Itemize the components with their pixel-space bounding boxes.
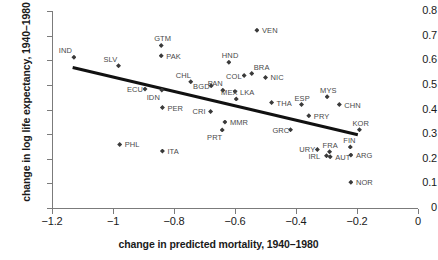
data-point-label: PRY bbox=[314, 112, 330, 121]
data-point-label: PHL bbox=[125, 140, 140, 149]
data-point-label: HND bbox=[222, 51, 239, 60]
data-point bbox=[234, 96, 239, 101]
data-point bbox=[143, 87, 148, 92]
data-point bbox=[327, 149, 332, 154]
data-point bbox=[242, 73, 247, 78]
x-tick bbox=[174, 209, 175, 214]
data-point-label: FRA bbox=[323, 141, 338, 150]
y-tick bbox=[47, 183, 52, 184]
data-point-label: MMR bbox=[230, 118, 248, 127]
data-point bbox=[299, 102, 304, 107]
y-tick bbox=[47, 36, 52, 37]
y-tick-label: 0.6 bbox=[393, 53, 437, 65]
x-tick-label: −0.8 bbox=[154, 215, 194, 227]
data-point-label: IRL bbox=[308, 152, 320, 161]
y-tick-label: 0.2 bbox=[393, 152, 437, 164]
data-point bbox=[222, 120, 227, 125]
x-tick bbox=[113, 209, 114, 214]
x-tick bbox=[357, 209, 358, 214]
y-tick-label: 0.5 bbox=[393, 78, 437, 90]
data-point-label: KOR bbox=[352, 119, 369, 128]
data-point-label: ECU bbox=[127, 85, 143, 94]
data-point bbox=[357, 127, 362, 132]
data-point bbox=[254, 28, 259, 33]
data-point-label: SLV bbox=[103, 55, 117, 64]
data-point-label: IDN bbox=[147, 93, 160, 102]
data-point bbox=[306, 113, 311, 118]
y-tick-label: 0.7 bbox=[393, 29, 437, 41]
x-tick-label: 0 bbox=[398, 215, 438, 227]
x-tick bbox=[296, 209, 297, 214]
data-point bbox=[348, 144, 353, 149]
data-point-label: GTM bbox=[154, 34, 171, 43]
data-point bbox=[160, 149, 165, 154]
x-tick bbox=[52, 209, 53, 214]
data-point-label: MEX bbox=[221, 88, 238, 97]
data-point bbox=[269, 100, 274, 105]
data-point-label: FIN bbox=[343, 136, 355, 145]
x-axis-label: change in predicted mortality, 1940–1980 bbox=[0, 238, 437, 250]
data-point bbox=[263, 75, 268, 80]
data-point-label: LKA bbox=[240, 88, 254, 97]
data-point bbox=[71, 55, 76, 60]
data-point-label: ITA bbox=[167, 147, 178, 156]
data-point-label: GRC bbox=[272, 126, 289, 135]
data-point-label: CHL bbox=[176, 71, 191, 80]
trend-line bbox=[73, 66, 359, 136]
data-point bbox=[328, 154, 333, 159]
data-point bbox=[116, 63, 121, 68]
y-tick-label: 0.4 bbox=[393, 103, 437, 115]
y-tick bbox=[47, 85, 52, 86]
data-point-label: MYS bbox=[320, 86, 337, 95]
data-point bbox=[337, 102, 342, 107]
y-tick-label: 0.8 bbox=[393, 4, 437, 16]
data-point bbox=[324, 153, 329, 158]
x-tick-label: −0.2 bbox=[337, 215, 377, 227]
data-point-label: COL bbox=[226, 72, 242, 81]
y-axis-label: change in log life expectancy, 1940–1980 bbox=[20, 2, 32, 202]
data-point-label: PAK bbox=[166, 52, 181, 61]
y-tick-label: 0.1 bbox=[393, 176, 437, 188]
data-point bbox=[325, 94, 330, 99]
data-point bbox=[159, 43, 164, 48]
y-tick bbox=[47, 134, 52, 135]
data-point bbox=[226, 60, 231, 65]
y-axis-line bbox=[52, 11, 53, 209]
x-tick-label: −1 bbox=[93, 215, 133, 227]
data-point-label: NOR bbox=[356, 178, 373, 187]
data-point bbox=[249, 71, 254, 76]
data-point-label: IND bbox=[59, 46, 72, 55]
y-tick bbox=[47, 60, 52, 61]
data-point bbox=[348, 180, 353, 185]
x-tick-label: −1.2 bbox=[32, 215, 72, 227]
x-tick-label: −0.6 bbox=[215, 215, 255, 227]
data-point-label: ARG bbox=[356, 151, 373, 160]
data-point-label: VEN bbox=[262, 26, 278, 35]
data-point-label: AUT bbox=[335, 153, 350, 162]
data-point bbox=[159, 53, 164, 58]
data-point bbox=[117, 142, 122, 147]
y-tick bbox=[47, 159, 52, 160]
y-tick bbox=[47, 110, 52, 111]
data-point-label: PER bbox=[167, 104, 183, 113]
y-tick-label: 0.3 bbox=[393, 127, 437, 139]
x-tick bbox=[418, 209, 419, 214]
data-point bbox=[208, 109, 213, 114]
data-point bbox=[160, 105, 165, 110]
data-point-label: CRI bbox=[193, 107, 206, 116]
data-point-label: BRA bbox=[254, 63, 270, 72]
data-point bbox=[220, 127, 225, 132]
data-point-label: ESP bbox=[294, 94, 309, 103]
y-tick bbox=[47, 11, 52, 12]
x-tick-label: −0.4 bbox=[276, 215, 316, 227]
data-point-label: THA bbox=[277, 99, 292, 108]
data-point-label: PRT bbox=[207, 133, 222, 142]
y-tick-label: 0 bbox=[393, 201, 437, 213]
x-tick bbox=[235, 209, 236, 214]
data-point-label: CHN bbox=[344, 101, 361, 110]
data-point-label: NIC bbox=[271, 73, 284, 82]
